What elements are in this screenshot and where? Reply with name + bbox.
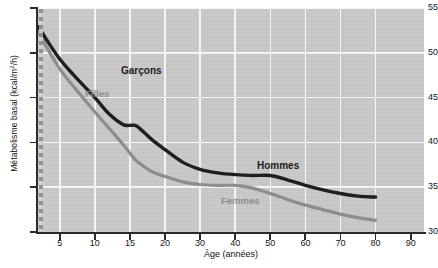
- curve-label-filles: Filles: [85, 88, 109, 99]
- y-tick-50: [30, 52, 37, 54]
- x-tick-label-40: 40: [220, 238, 250, 248]
- x-tick-label-30: 30: [185, 238, 215, 248]
- x-tick-label-15: 15: [115, 238, 145, 248]
- x-tick-label-60: 60: [290, 238, 320, 248]
- y-tick-label-35: 35: [410, 181, 438, 191]
- curve-label-hommes: Hommes: [257, 160, 299, 171]
- y-tick-55: [30, 7, 37, 9]
- x-tick-label-90: 90: [396, 238, 426, 248]
- x-tick-label-5: 5: [45, 238, 75, 248]
- y-tick-label-45: 45: [410, 92, 438, 102]
- curve-label-femmes: Femmes: [221, 195, 260, 206]
- chart-figure: Métabolisme basal (kcal/m2/h) GarçonsFil…: [0, 0, 438, 268]
- x-tick-label-20: 20: [150, 238, 180, 248]
- x-axis-title: Âge (années): [38, 249, 424, 259]
- y-tick-35: [30, 186, 37, 188]
- y-tick-label-55: 55: [410, 2, 438, 12]
- y-tick-30: [30, 231, 37, 233]
- y-tick-label-50: 50: [410, 47, 438, 57]
- y-tick-40: [30, 142, 37, 144]
- series-line-garcons-hommes: [38, 25, 376, 197]
- x-tick-label-80: 80: [361, 238, 391, 248]
- y-tick-label-40: 40: [410, 136, 438, 146]
- y-axis-line: [36, 7, 38, 233]
- y-axis-break-hatch: [39, 9, 43, 231]
- curve-label-garons: Garçons: [121, 65, 162, 76]
- x-tick-label-70: 70: [325, 238, 355, 248]
- y-tick-45: [30, 97, 37, 99]
- y-axis-title: Métabolisme basal (kcal/m2/h): [9, 13, 20, 213]
- x-tick-label-10: 10: [80, 238, 110, 248]
- y-tick-label-30: 30: [410, 226, 438, 236]
- x-tick-label-50: 50: [255, 238, 285, 248]
- plot-area: GarçonsFillesHommesFemmes: [38, 8, 424, 232]
